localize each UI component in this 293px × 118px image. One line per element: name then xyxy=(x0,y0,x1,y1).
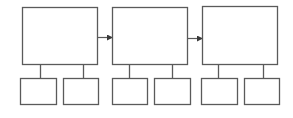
main-boxes-group xyxy=(23,7,278,65)
sub-box-5 xyxy=(202,79,238,105)
main-box-2 xyxy=(113,8,188,65)
sub-boxes-group xyxy=(21,79,280,105)
main-box-1 xyxy=(23,8,98,65)
connectors-group xyxy=(41,65,264,79)
sub-box-1 xyxy=(21,79,57,105)
sub-box-4 xyxy=(155,79,191,105)
diagram-canvas xyxy=(0,0,293,118)
main-box-3 xyxy=(203,7,278,65)
sub-box-2 xyxy=(64,79,99,105)
sub-box-3 xyxy=(113,79,148,105)
sub-box-6 xyxy=(245,79,280,105)
